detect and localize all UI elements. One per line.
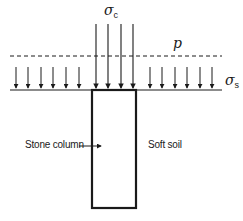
sigma-c-subscript: c (114, 10, 119, 20)
soil-stress-arrows-right (150, 67, 212, 88)
sigma-s-label: σs (225, 72, 239, 90)
sigma-s-subscript: s (235, 80, 240, 90)
soft-soil-label: Soft soil (148, 139, 182, 150)
sigma-s-symbol: σ (225, 72, 235, 88)
stone-column-rect (92, 90, 136, 208)
sigma-c-label: σc (104, 2, 118, 20)
soil-stress-arrows-left (16, 67, 79, 88)
p-label: p (173, 35, 182, 51)
sigma-c-symbol: σ (104, 2, 114, 18)
stone-column-label: Stone column (25, 139, 84, 150)
stone-column-diagram (0, 0, 243, 221)
